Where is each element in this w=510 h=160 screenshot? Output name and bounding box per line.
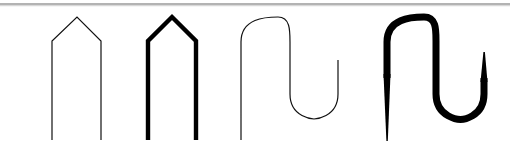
figure-canvas <box>0 0 510 160</box>
stroke-shapes-figure <box>0 0 510 160</box>
